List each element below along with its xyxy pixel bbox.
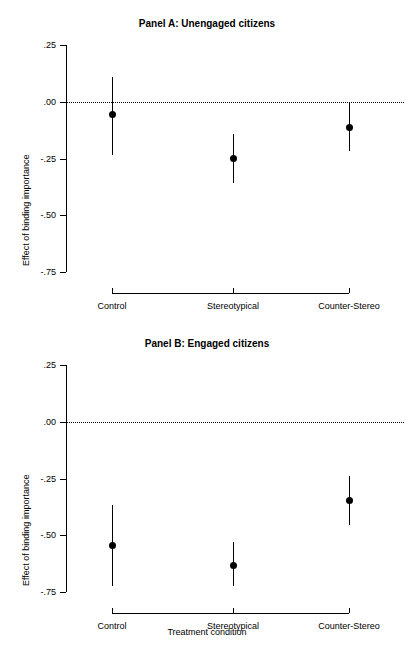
y-axis-tick (60, 159, 66, 160)
y-axis-tick-label: .25 (26, 41, 56, 50)
y-axis-tick-label: -.75 (26, 268, 56, 277)
data-point (109, 542, 116, 549)
x-axis-tick-label: Stereotypical (207, 302, 259, 311)
x-axis-tick (112, 608, 113, 613)
data-point (346, 497, 353, 504)
y-axis-line (66, 365, 67, 592)
x-axis-tick-label: Control (97, 302, 126, 311)
x-axis-tick (349, 608, 350, 613)
data-point (346, 124, 353, 131)
panel-a-plot-area: .25.00-.25-.50-.75Effect of binding impo… (0, 0, 414, 320)
panel-a: Panel A: Unengaged citizens .25.00-.25-.… (0, 0, 414, 320)
y-axis-tick (60, 272, 66, 273)
y-axis-tick (60, 365, 66, 366)
figure-error-bar-panels: Panel A: Unengaged citizens .25.00-.25-.… (0, 0, 414, 649)
x-axis-tick-label: Counter-Stereo (318, 302, 380, 311)
data-point (109, 111, 116, 118)
y-axis-tick-label: .00 (26, 418, 56, 427)
y-axis-title: Effect of binding importance (22, 155, 31, 266)
x-axis-line (112, 293, 349, 294)
y-axis-tick-label: -.75 (26, 588, 56, 597)
data-point (230, 562, 237, 569)
y-axis-tick (60, 592, 66, 593)
y-axis-tick (60, 479, 66, 480)
x-axis-title: Treatment condition (0, 628, 414, 637)
panel-b-plot-area: .25.00-.25-.50-.75Effect of binding impo… (0, 320, 414, 649)
y-axis-tick (60, 535, 66, 536)
y-axis-tick (60, 215, 66, 216)
x-axis-tick (112, 288, 113, 293)
panel-b: Panel B: Engaged citizens .25.00-.25-.50… (0, 320, 414, 649)
y-axis-tick-label: .25 (26, 361, 56, 370)
y-axis-tick-label: .00 (26, 98, 56, 107)
y-axis-title: Effect of binding importance (22, 475, 31, 586)
data-point (230, 155, 237, 162)
x-axis-line (112, 613, 349, 614)
x-axis-tick (233, 608, 234, 613)
x-axis-tick (233, 288, 234, 293)
x-axis-tick (349, 288, 350, 293)
y-axis-line (66, 45, 67, 272)
y-axis-tick (60, 45, 66, 46)
zero-reference-line (60, 422, 404, 423)
